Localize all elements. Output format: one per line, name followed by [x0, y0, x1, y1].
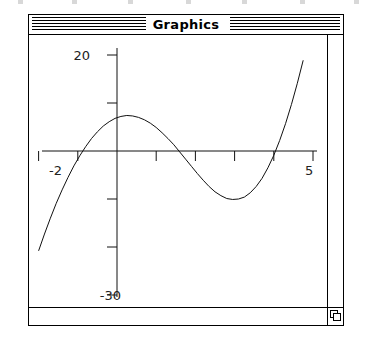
vertical-scrollbar[interactable]	[327, 35, 343, 307]
horizontal-scrollbar[interactable]	[29, 307, 343, 325]
resize-grow-box-icon[interactable]	[327, 307, 343, 325]
scan-artifact-strip	[0, 0, 374, 8]
plot-area: -2 5 20 -30	[29, 35, 327, 307]
y-tick-label-negative-thirty: -30	[100, 288, 121, 303]
plot-canvas: -2 5 20 -30	[29, 35, 327, 307]
window-title-bar[interactable]: Graphics	[29, 15, 343, 35]
window-title-text: Graphics	[146, 17, 227, 32]
y-tick-label-twenty: 20	[73, 48, 90, 63]
x-tick-label-negative-two: -2	[49, 163, 62, 178]
x-tick-label-five: 5	[305, 163, 313, 178]
graphics-window[interactable]: Graphics	[28, 14, 344, 326]
window-content: -2 5 20 -30	[29, 35, 343, 325]
window-title: Graphics	[29, 16, 343, 33]
y-axis-ticks	[107, 55, 117, 295]
